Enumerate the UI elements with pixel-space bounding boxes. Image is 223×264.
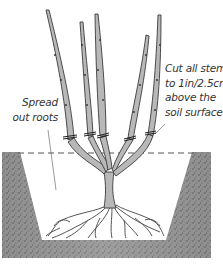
roots bbox=[46, 205, 164, 238]
cut-stems-leader-line bbox=[155, 124, 165, 134]
rose-stems bbox=[46, 10, 161, 208]
rose-planting-illustration bbox=[0, 0, 223, 264]
cut-stems-line-4: soil surface bbox=[165, 105, 223, 120]
spread-roots-annotation: Spread out roots bbox=[3, 95, 58, 124]
spread-roots-line-2: out roots bbox=[3, 110, 58, 125]
cut-stems-line-2: to 1in/2.5cm bbox=[165, 76, 223, 91]
cut-stems-annotation: Cut all stems to 1in/2.5cm above the soi… bbox=[165, 61, 223, 119]
spread-roots-leader-line bbox=[48, 130, 56, 190]
cut-stems-line-1: Cut all stems bbox=[165, 61, 223, 76]
cut-marks bbox=[63, 131, 156, 141]
spread-roots-line-1: Spread bbox=[3, 95, 58, 110]
cut-stems-line-3: above the bbox=[165, 90, 223, 105]
